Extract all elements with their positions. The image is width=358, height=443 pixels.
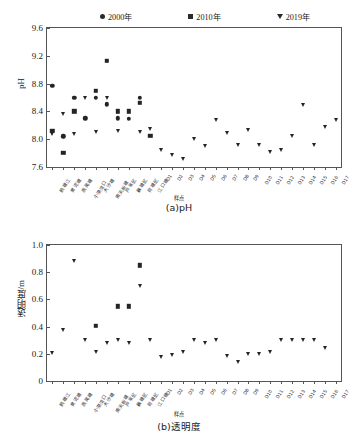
- y-tick-label: 8.0: [32, 134, 47, 144]
- x-tick-mark: [259, 167, 260, 170]
- x-tick-mark: [259, 381, 260, 384]
- data-point: [105, 102, 109, 106]
- x-tick-label: D17: [340, 175, 349, 186]
- x-tick-mark: [161, 381, 162, 384]
- data-point: [50, 83, 54, 87]
- x-tick-mark: [205, 167, 206, 170]
- data-point: [116, 109, 120, 113]
- data-point: [214, 118, 218, 122]
- data-point: [148, 134, 152, 138]
- x-tick-mark: [270, 381, 271, 384]
- data-point: [72, 95, 76, 99]
- legend-label-2019: 2019年: [286, 10, 310, 22]
- x-tick-mark: [194, 167, 195, 170]
- data-point: [50, 132, 54, 136]
- x-tick-mark: [238, 381, 239, 384]
- x-tick-mark: [107, 381, 108, 384]
- x-tick-label: D14: [308, 175, 317, 186]
- data-point: [170, 353, 174, 357]
- x-tick-mark: [118, 167, 119, 170]
- x-tick-mark: [161, 167, 162, 170]
- data-point: [268, 350, 272, 354]
- y-tick-label: 0.2: [32, 349, 47, 359]
- data-point: [257, 143, 261, 147]
- triangle-down-icon: [277, 14, 283, 19]
- data-point: [126, 117, 130, 121]
- data-point: [137, 95, 141, 99]
- x-tick-mark: [107, 167, 108, 170]
- data-point: [301, 338, 305, 342]
- x-tick-label: D10: [264, 175, 273, 186]
- data-point: [127, 341, 131, 345]
- data-point: [225, 131, 229, 135]
- x-tick-label: D16: [330, 175, 339, 186]
- plot-area-transparency: 00.20.40.60.81.0 鹅塘江黄泥塘燕尾塘小港湾口大沙塘南天新塘芦苇区…: [46, 244, 342, 382]
- data-point: [61, 134, 65, 138]
- x-tick-mark: [292, 381, 293, 384]
- x-tick-mark: [205, 381, 206, 384]
- x-tick-mark: [140, 167, 141, 170]
- x-tick-label: D15: [319, 175, 328, 186]
- x-tick-mark: [85, 381, 86, 384]
- x-tick-mark: [292, 167, 293, 170]
- data-point: [94, 88, 98, 92]
- data-point: [126, 109, 130, 113]
- x-tick-label: D12: [286, 175, 295, 186]
- data-point: [94, 324, 98, 328]
- data-point: [148, 338, 152, 342]
- data-point: [203, 341, 207, 345]
- data-point: [170, 153, 174, 157]
- chart-ph: 2000年 2010年 2019年 pH 7.68.08.48.89.29.6 …: [0, 0, 358, 218]
- x-tick-label: D1: [166, 174, 174, 182]
- x-tick-mark: [281, 167, 282, 170]
- x-tick-mark: [52, 167, 53, 170]
- data-point: [312, 338, 316, 342]
- x-tick-mark: [74, 167, 75, 170]
- y-tick-label: 0: [39, 376, 48, 386]
- data-point: [236, 143, 240, 147]
- legend: 2000年 2010年 2019年: [100, 9, 310, 23]
- x-tick-label: D9: [253, 174, 261, 182]
- x-tick-mark: [63, 381, 64, 384]
- x-tick-mark: [270, 167, 271, 170]
- x-tick-label: D11: [275, 175, 284, 186]
- data-point: [137, 101, 141, 105]
- data-point: [257, 352, 261, 356]
- data-point: [246, 128, 250, 132]
- y-tick-label: 0.4: [32, 322, 47, 332]
- data-point: [50, 351, 54, 355]
- x-tick-mark: [96, 381, 97, 384]
- data-point: [279, 148, 283, 152]
- data-point: [94, 95, 98, 99]
- data-point: [279, 338, 283, 342]
- circle-icon: [100, 14, 105, 19]
- data-point: [116, 304, 120, 308]
- x-tick-mark: [85, 167, 86, 170]
- data-point: [61, 112, 65, 116]
- data-point: [203, 144, 207, 148]
- plot-area-ph: 7.68.08.48.89.29.6 鹅塘江黄泥塘燕尾塘小港湾口大沙塘南天新塘芦…: [46, 27, 342, 168]
- x-tick-mark: [194, 381, 195, 384]
- y-tick-label: 0.6: [32, 294, 47, 304]
- x-tick-mark: [118, 381, 119, 384]
- x-tick-label: D7: [231, 174, 239, 182]
- y-axis-title-ph: pH: [16, 78, 26, 89]
- square-icon: [188, 14, 193, 19]
- x-tick-mark: [183, 167, 184, 170]
- x-tick-mark: [314, 167, 315, 170]
- x-tick-mark: [172, 167, 173, 170]
- y-tick-label: 9.2: [32, 51, 47, 61]
- data-point: [323, 346, 327, 350]
- x-tick-mark: [216, 167, 217, 170]
- x-tick-mark: [281, 381, 282, 384]
- x-tick-mark: [150, 381, 151, 384]
- x-tick-mark: [325, 381, 326, 384]
- data-point: [137, 263, 141, 267]
- x-tick-mark: [303, 167, 304, 170]
- data-point: [126, 304, 130, 308]
- data-point: [116, 129, 120, 133]
- x-tick-mark: [336, 381, 337, 384]
- data-point: [290, 134, 294, 138]
- legend-label-2010: 2010年: [196, 10, 220, 22]
- data-point: [192, 137, 196, 141]
